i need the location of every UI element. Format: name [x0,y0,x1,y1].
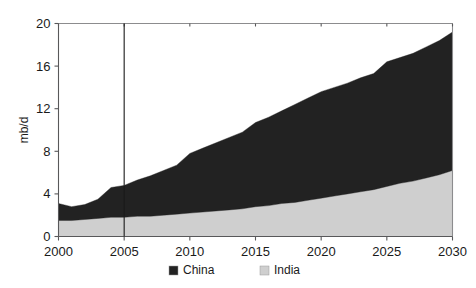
chart-canvas: 048121620 2000200520102015202020252030 m… [0,0,476,288]
y-tick-label: 20 [36,16,50,31]
y-tick-label: 12 [36,101,50,116]
x-tick-label: 2010 [175,244,204,259]
x-tick-label: 2015 [241,244,270,259]
x-tick-label: 2030 [438,244,467,259]
x-tick-label: 2025 [372,244,401,259]
y-tick-label: 8 [43,144,50,159]
x-tick-label: 2000 [44,244,73,259]
legend-swatch-china [169,266,178,275]
x-tick-label: 2020 [307,244,336,259]
legend-label-china: China [183,263,215,277]
y-tick-label: 16 [36,59,50,74]
legend-swatch-india [260,266,269,275]
y-tick-label: 0 [43,229,50,244]
y-tick-label: 4 [43,186,50,201]
y-axis-title: mb/d [17,117,31,144]
area-chart: 048121620 2000200520102015202020252030 m… [0,0,476,288]
legend-label-india: India [274,263,300,277]
x-tick-label: 2005 [110,244,139,259]
